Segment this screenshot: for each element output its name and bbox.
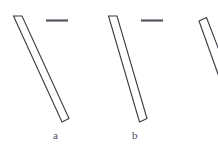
panel-label-a: a <box>53 130 58 141</box>
figure-root: a b <box>0 0 218 160</box>
figure-background <box>0 0 218 160</box>
panel-label-b: b <box>132 130 138 141</box>
figure-canvas <box>0 0 218 160</box>
